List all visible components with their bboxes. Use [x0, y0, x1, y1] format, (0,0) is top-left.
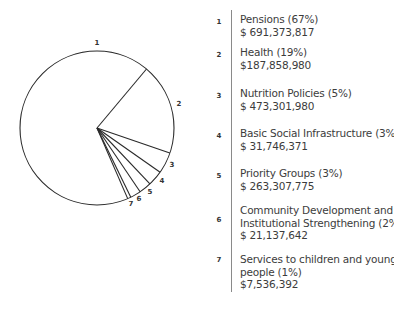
legend-label: Nutrition Policies (5%) [240, 87, 394, 100]
legend-number: 7 [215, 256, 223, 264]
slice-label-2: 2 [177, 100, 182, 108]
legend-divider [231, 10, 232, 292]
legend-number: 3 [215, 92, 223, 100]
slice-label-5: 5 [148, 188, 153, 196]
legend-number: 2 [215, 51, 223, 59]
slice-label-6: 6 [137, 195, 142, 203]
slice-label-4: 4 [160, 177, 165, 185]
legend-text: Nutrition Policies (5%) $ 473,301,980 [240, 87, 394, 112]
slice-label-7: 7 [129, 200, 134, 208]
legend-label: Pensions (67%) [240, 13, 394, 26]
pie-chart [0, 0, 200, 220]
boundary-4-5 [97, 128, 150, 184]
legend-amount: $ 31,746,371 [240, 140, 394, 153]
legend-text: Priority Groups (3%) $ 263,307,775 [240, 167, 394, 192]
legend-amount: $ 21,137,642 [240, 229, 394, 242]
legend-amount: $ 473,301,980 [240, 100, 394, 113]
legend-label: Health (19%) [240, 46, 394, 59]
legend-label: Services to children and young [240, 253, 394, 266]
legend-label-cont: Institutional Strengthening (2%) [240, 217, 394, 230]
legend-amount: $ 263,307,775 [240, 180, 394, 193]
legend-text: Basic Social Infrastructure (3%) $ 31,74… [240, 127, 394, 152]
legend-text: Services to children and young people (1… [240, 253, 394, 291]
legend-number: 6 [215, 216, 223, 224]
legend-label: Priority Groups (3%) [240, 167, 394, 180]
legend-label: Basic Social Infrastructure (3%) [240, 127, 394, 140]
legend-number: 4 [215, 132, 223, 140]
legend-text: Pensions (67%) $ 691,373,817 [240, 13, 394, 38]
boundary-1-2 [97, 69, 147, 128]
legend-label: Community Development and [240, 204, 394, 217]
legend-label-cont: people (1%) [240, 266, 394, 279]
legend-amount: $187,858,980 [240, 59, 394, 72]
slice-label-1: 1 [95, 39, 100, 47]
legend-number: 1 [215, 18, 223, 26]
legend-number: 5 [215, 172, 223, 180]
legend-text: Health (19%) $187,858,980 [240, 46, 394, 71]
legend-amount: $7,536,392 [240, 278, 394, 291]
slice-label-3: 3 [170, 161, 175, 169]
legend-text: Community Development and Institutional … [240, 204, 394, 242]
legend-amount: $ 691,373,817 [240, 26, 394, 39]
boundary-5-6 [97, 128, 140, 192]
